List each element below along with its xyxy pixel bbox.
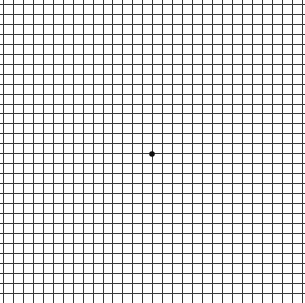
center-fixation-dot — [149, 151, 155, 157]
amsler-grid — [0, 0, 305, 303]
